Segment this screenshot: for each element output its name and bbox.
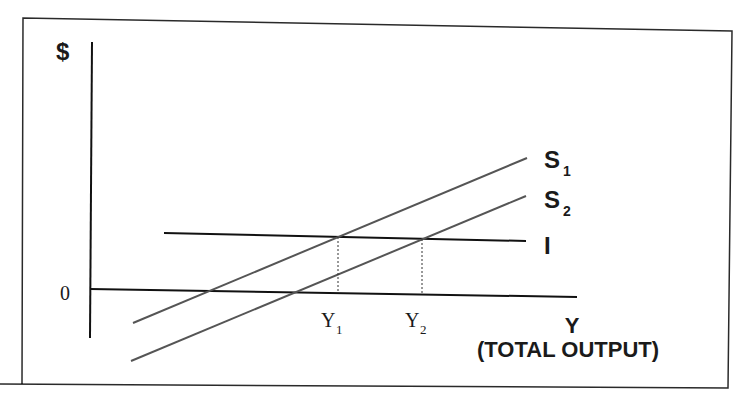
s1-subscript: 1 (563, 163, 571, 179)
s2-subscript: 2 (563, 203, 571, 219)
x-axis-sublabel: (TOTAL OUTPUT) (477, 337, 659, 362)
investment-label: I (544, 232, 551, 259)
saving-investment-diagram: $ 0 S 1 S 2 I Y 1 Y 2 Y (TOTAL OUTPUT) (0, 0, 745, 407)
frame-border (0, 18, 732, 388)
y2-subscript: 2 (420, 322, 427, 337)
s1-label: S (544, 146, 560, 173)
origin-label: 0 (60, 282, 70, 304)
x-axis-label: Y (565, 313, 580, 338)
saving-line-s2 (131, 196, 526, 361)
y2-label: Y (405, 309, 419, 331)
s2-label: S (544, 186, 560, 213)
y-axis (90, 42, 92, 338)
x-axis (90, 289, 577, 297)
y-axis-label: $ (56, 38, 70, 65)
y1-subscript: 1 (336, 322, 343, 337)
y1-label: Y (321, 309, 335, 331)
